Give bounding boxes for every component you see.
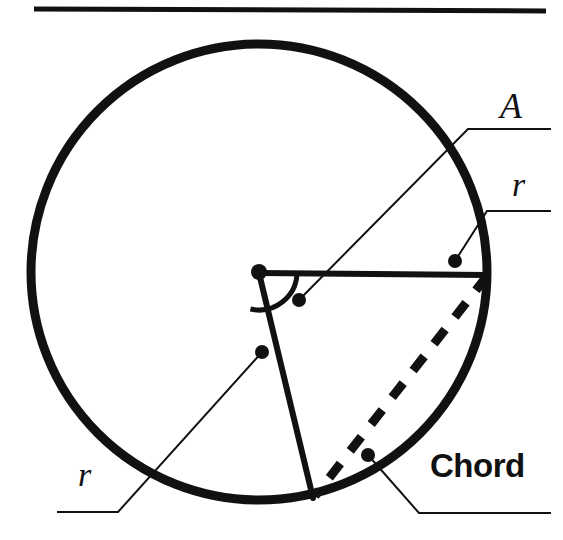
radius-label-right: r [512, 168, 525, 202]
circle-center-dot [251, 264, 267, 280]
chord-label: Chord [430, 449, 525, 482]
leader-dot-angle [292, 293, 306, 307]
figure-canvas: A r r Chord [0, 0, 563, 540]
leader-dot-radius-right [448, 254, 462, 268]
radius-label-left: r [78, 458, 91, 492]
angle-label: A [500, 88, 522, 124]
horizontal-rule-line [34, 9, 546, 11]
leader-line-radius-right [455, 211, 551, 261]
radius-lower-line [259, 273, 313, 498]
leader-dot-radius-left [255, 345, 269, 359]
radius-horizontal-line [259, 273, 487, 275]
leader-dot-chord [361, 448, 375, 462]
